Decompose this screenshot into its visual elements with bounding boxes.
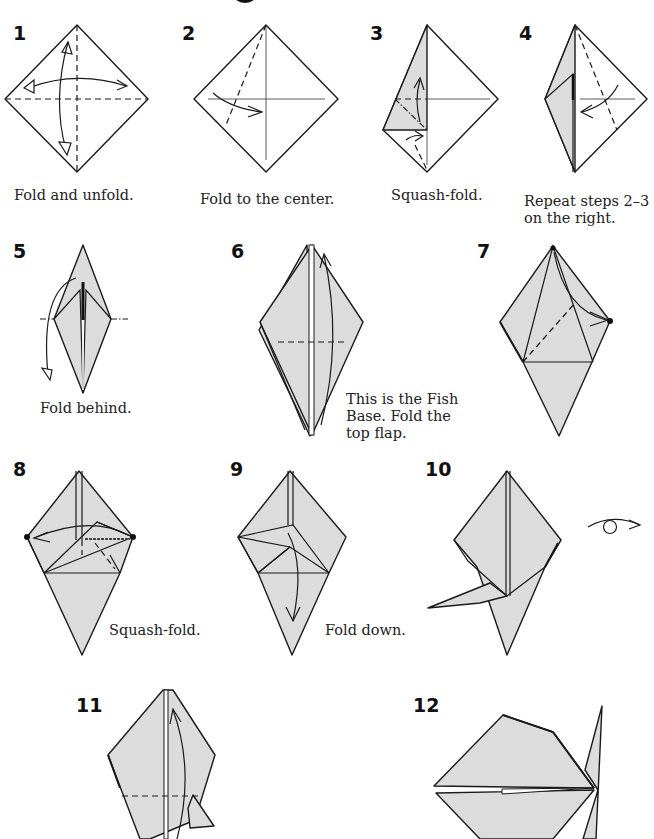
step-6-caption-line1: This is the Fish — [346, 391, 458, 408]
step-6-caption-line2: Base. Fold the — [346, 408, 451, 425]
fish-body-top — [434, 715, 594, 788]
turn-over-arrow — [588, 519, 640, 527]
step-10-diagram — [410, 455, 654, 665]
turn-over-icon — [604, 521, 617, 534]
step-12-diagram — [400, 680, 654, 839]
step-9-caption: Fold down. — [325, 622, 406, 639]
step-2-diagram — [180, 0, 360, 180]
reference-dot — [607, 318, 613, 324]
step-6-caption-line3: top flap. — [346, 425, 407, 442]
step-5-caption: Fold behind. — [40, 400, 132, 417]
step-5-diagram — [0, 240, 200, 410]
fish-body-bottom — [436, 790, 594, 839]
step-8-caption: Squash-fold. — [109, 622, 201, 639]
step-3-caption: Squash-fold. — [391, 187, 483, 204]
step-4-diagram — [520, 0, 654, 180]
step-2-caption: Fold to the center. — [200, 191, 334, 208]
tail-fin — [583, 706, 602, 839]
step-1-caption: Fold and unfold. — [14, 187, 134, 204]
step-4-caption-line2: on the right. — [524, 210, 616, 227]
fish-base-folded — [500, 246, 610, 436]
step-3-diagram — [370, 0, 510, 180]
step-1-diagram — [0, 0, 160, 180]
left-flap — [545, 25, 575, 172]
step-4-caption-line1: Repeat steps 2–3 — [524, 193, 649, 210]
step-7-diagram — [470, 240, 654, 440]
step-11-diagram — [40, 680, 240, 839]
